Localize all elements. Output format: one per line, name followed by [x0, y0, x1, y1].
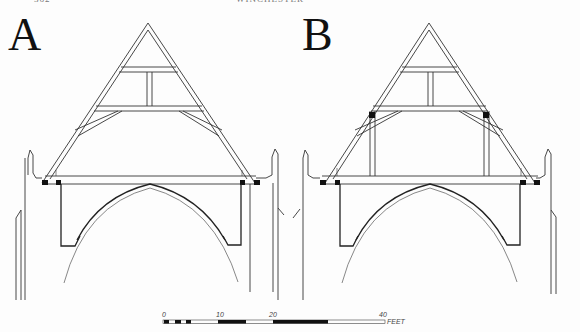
- scale-unit: FEET: [387, 318, 406, 325]
- truss-a: [16, 23, 284, 300]
- book-page: 362 WINCHESTER A B: [0, 0, 580, 332]
- scale-bar: 0 10 20 40 FEET: [162, 311, 406, 325]
- scale-tick-10: 10: [216, 311, 224, 318]
- roof-truss-drawing: 0 10 20 40 FEET: [0, 0, 580, 332]
- truss-b: [273, 23, 556, 300]
- scale-tick-0: 0: [162, 311, 166, 318]
- scale-tick-40: 40: [379, 311, 387, 318]
- scale-tick-20: 20: [268, 311, 277, 318]
